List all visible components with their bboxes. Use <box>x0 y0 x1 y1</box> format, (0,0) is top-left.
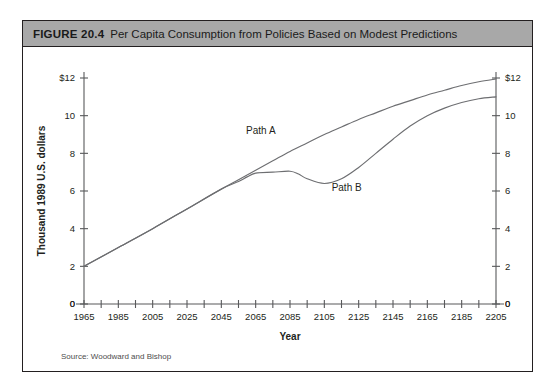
chart-labels-group: Path APath BYearThousand 1989 U.S. dolla… <box>36 125 362 342</box>
y-tick-label-left: $12 <box>59 72 75 83</box>
x-tick-label: 1965 <box>73 311 94 322</box>
x-tick-label: 2145 <box>382 311 403 322</box>
y-tick-label-left: 4 <box>70 223 75 234</box>
figure-number: FIGURE 20.4 <box>33 28 104 40</box>
x-tick-label: 1985 <box>108 311 129 322</box>
x-tick-label: 2125 <box>348 311 369 322</box>
figure-header: FIGURE 20.4 Per Capita Consumption from … <box>23 21 532 47</box>
y-tick-label-right: 2 <box>505 261 510 272</box>
line-chart: 00224466881010$12$1219651985200520252045… <box>23 47 532 373</box>
curves-group <box>84 79 496 266</box>
series-curve-path-a <box>84 79 496 266</box>
y-tick-label-left: 6 <box>70 185 75 196</box>
x-tick-label: 2025 <box>176 311 197 322</box>
series-label-path-b: Path B <box>332 182 362 193</box>
y-tick-label-left: 8 <box>70 148 75 159</box>
y-tick-label-right: 8 <box>505 148 510 159</box>
x-tick-label: 2105 <box>314 311 335 322</box>
y-tick-label-right: 4 <box>505 223 510 234</box>
axes-group: 00224466881010$12$1219651985200520252045… <box>59 72 521 322</box>
x-tick-label: 2085 <box>279 311 300 322</box>
figure-frame: FIGURE 20.4 Per Capita Consumption from … <box>22 20 533 372</box>
series-label-path-a: Path A <box>246 125 276 136</box>
x-tick-label: 2165 <box>417 311 438 322</box>
series-curve-path-b <box>84 97 496 267</box>
x-tick-label: 2005 <box>142 311 163 322</box>
x-origin-label: 0 <box>70 298 75 309</box>
y-tick-label-right: 6 <box>505 185 510 196</box>
x-end-label: 0 <box>505 298 510 309</box>
x-tick-label: 2045 <box>211 311 232 322</box>
figure-title: Per Capita Consumption from Policies Bas… <box>110 28 457 40</box>
y-tick-label-right: 10 <box>505 110 516 121</box>
x-axis-title: Year <box>279 331 300 342</box>
y-tick-label-left: 10 <box>64 110 75 121</box>
source-note: Source: Woodward and Bishop <box>61 352 172 361</box>
plot-area: 00224466881010$12$1219651985200520252045… <box>23 47 532 373</box>
x-tick-label: 2185 <box>451 311 472 322</box>
y-axis-title: Thousand 1989 U.S. dollars <box>36 125 47 256</box>
y-tick-label-left: 2 <box>70 261 75 272</box>
x-tick-label: 2065 <box>245 311 266 322</box>
x-tick-label: 2205 <box>485 311 506 322</box>
y-tick-label-right: $12 <box>505 72 521 83</box>
